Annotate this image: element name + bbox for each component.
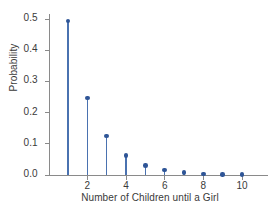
x-tick-label: 2 — [77, 180, 97, 191]
y-tick-label: 0.3 — [12, 74, 38, 85]
stem-marker — [124, 153, 128, 157]
y-tick-label: 0.1 — [12, 137, 38, 148]
y-tick-mark — [45, 50, 50, 51]
y-axis-line — [49, 14, 50, 176]
y-tick-label: 0.0 — [12, 168, 38, 179]
plot-area: 0.00.10.20.30.40.5246810 — [0, 0, 269, 212]
stem-marker — [220, 172, 224, 176]
y-tick-label: 0.4 — [12, 43, 38, 54]
stem-line — [67, 21, 69, 175]
x-tick-label: 8 — [193, 180, 213, 191]
stem-marker — [104, 134, 108, 138]
y-tick-mark — [45, 19, 50, 20]
stem-line — [125, 156, 127, 176]
stem-line — [106, 136, 108, 175]
y-tick-mark — [45, 143, 50, 144]
x-tick-label: 4 — [116, 180, 136, 191]
x-tick-label: 6 — [155, 180, 175, 191]
x-tick-label: 10 — [232, 180, 252, 191]
y-tick-mark — [45, 112, 50, 113]
stem-marker — [201, 172, 205, 176]
stem-marker — [182, 170, 186, 174]
y-tick-label: 0.5 — [12, 12, 38, 23]
stem-marker — [85, 96, 89, 100]
y-tick-label: 0.2 — [12, 106, 38, 117]
stem-line — [87, 98, 89, 175]
stem-marker — [66, 19, 70, 23]
x-axis-line — [50, 175, 269, 176]
y-tick-mark — [45, 81, 50, 82]
y-tick-mark — [45, 175, 50, 176]
stem-marker — [162, 168, 166, 172]
stem-marker — [143, 163, 147, 167]
chart-figure: Probability Number of Children until a G… — [0, 0, 269, 212]
stem-marker — [240, 172, 244, 176]
